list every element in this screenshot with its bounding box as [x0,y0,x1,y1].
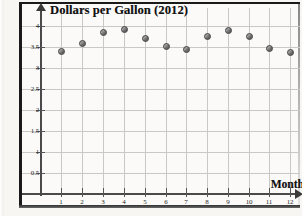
data-point [163,43,170,50]
y-axis-tick-label: 4 [36,22,39,30]
figure-bottom-edge [19,205,300,208]
y-axis-tick-label: 1 [36,148,39,156]
gridline-vertical [61,8,62,194]
gridline-vertical [124,8,125,194]
gridline-horizontal [22,68,300,69]
data-point [225,27,232,34]
x-axis-tick [82,188,83,197]
data-point [183,46,190,53]
data-point [121,26,128,33]
chart-title: Dollars per Gallon (2012) [50,3,188,18]
x-axis-tick [103,188,104,197]
gridline-vertical [269,8,270,194]
x-axis-line [22,193,300,195]
gridline-vertical [290,8,291,194]
data-point [266,45,273,52]
gridline-horizontal [22,173,300,174]
data-point [287,49,294,56]
data-point [79,40,86,47]
y-axis-tick-label: 2.5 [31,85,39,93]
data-point [142,35,149,42]
y-axis-tick-label: 0.5 [31,169,39,177]
y-axis-arrow-icon [36,3,46,11]
gridline-horizontal [22,152,300,153]
x-axis-tick [186,188,187,197]
y-axis-line [40,8,42,196]
y-axis-tick-label: 1.5 [31,127,39,135]
y-axis-tick-label: 2 [36,106,39,114]
x-axis-tick [145,188,146,197]
data-point [58,48,65,55]
scatter-plot: 0.5 1 1.5 2 2.5 3 3.5 4 1 2 3 4 5 6 7 8 … [0,0,302,216]
data-point [246,33,253,40]
gridline-vertical [228,8,229,194]
x-axis-tick [61,188,62,197]
x-axis-tick [228,188,229,197]
gridline-horizontal [22,89,300,90]
gridline-horizontal [22,110,300,111]
x-axis-tick [249,188,250,197]
gridline-vertical [166,8,167,194]
x-axis-tick [166,188,167,197]
y-axis-tick-label: 3.5 [31,43,39,51]
gridline-vertical [103,8,104,194]
figure-screenshot: 0.5 1 1.5 2 2.5 3 3.5 4 1 2 3 4 5 6 7 8 … [0,0,302,216]
x-axis-tick [124,188,125,197]
x-axis-title: Month [271,178,302,190]
data-point [100,29,107,36]
gridline-horizontal [22,26,300,27]
gridline-horizontal [22,131,300,132]
data-point [204,33,211,40]
gridline-vertical [82,8,83,194]
y-axis-tick-label: 3 [36,64,39,72]
x-axis-tick [207,188,208,197]
gridline-vertical [186,8,187,194]
